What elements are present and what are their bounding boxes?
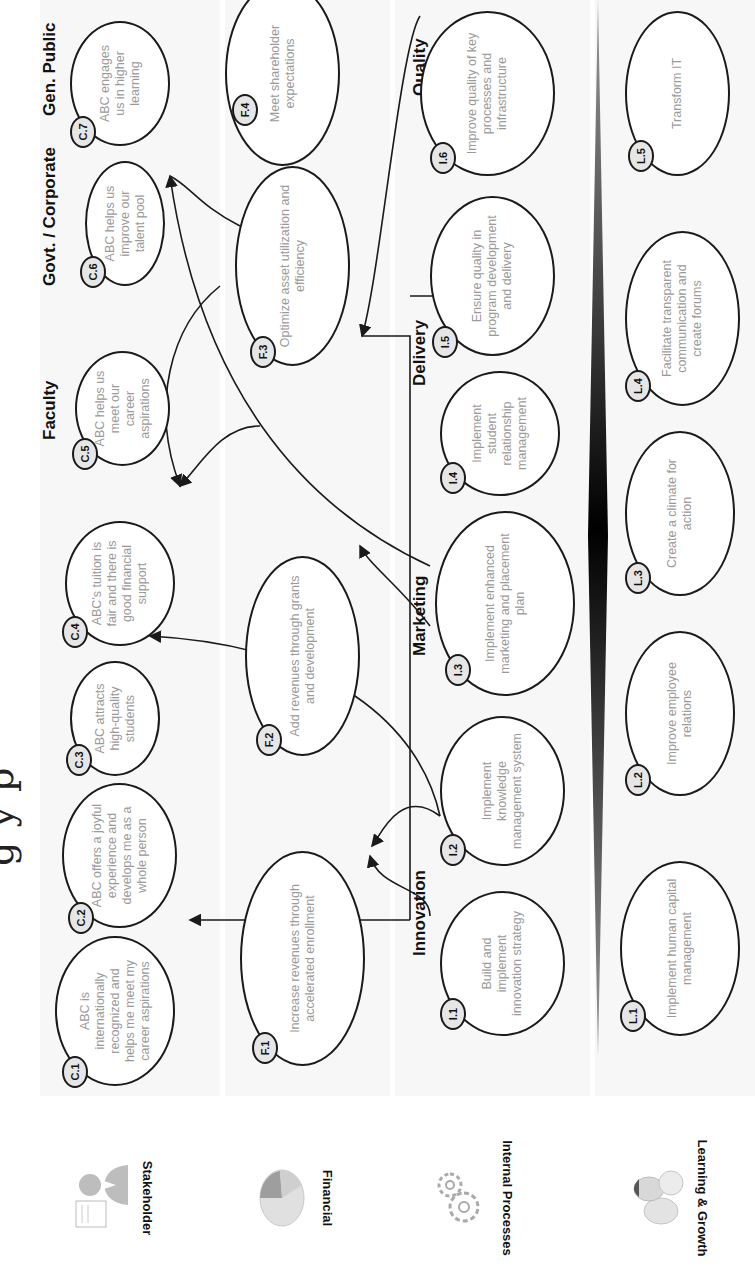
badge-l4: L.4 <box>625 370 651 402</box>
badge-c1: C.1 <box>62 1056 88 1088</box>
badge-i4: I.4 <box>440 462 466 494</box>
strategy-map: g y p Stakeholder Financial Internal <box>0 0 755 1286</box>
badge-c5: C.5 <box>72 438 98 470</box>
badge-i5: I.5 <box>432 326 458 358</box>
badge-i2: I.2 <box>440 834 466 866</box>
learning-foundation-wedge <box>588 0 608 1056</box>
group-label-faculty: Faculty <box>40 380 60 440</box>
badge-i1: I.1 <box>440 998 466 1030</box>
badge-l3: L.3 <box>625 562 651 594</box>
group-label-gen-public: Gen. Public <box>40 22 60 116</box>
badge-c4: C.4 <box>62 616 88 648</box>
badge-l2: L.2 <box>625 764 651 796</box>
badge-l5: L.5 <box>628 140 654 172</box>
badge-c7: C.7 <box>70 116 96 148</box>
badge-c6: C.6 <box>80 256 106 288</box>
badge-c3: C.3 <box>66 744 92 776</box>
group-label-marketing: Marketing <box>410 576 430 656</box>
badge-l1: L.1 <box>620 1000 646 1032</box>
node-f3[interactable]: Optimize asset utilization and efficienc… <box>235 166 350 366</box>
badge-f1: F.1 <box>252 1032 278 1064</box>
badge-f4: F.4 <box>232 94 258 126</box>
group-label-govt-corporate: Govt. / Corporate <box>40 147 60 286</box>
badge-i3: I.3 <box>445 654 471 686</box>
group-label-innovation: Innovation <box>410 870 430 956</box>
badge-c2: C.2 <box>68 902 94 934</box>
badge-f3: F.3 <box>250 336 276 368</box>
badge-i6: I.6 <box>430 142 456 174</box>
badge-f2: F.2 <box>256 724 282 756</box>
group-label-delivery: Delivery <box>410 320 430 386</box>
